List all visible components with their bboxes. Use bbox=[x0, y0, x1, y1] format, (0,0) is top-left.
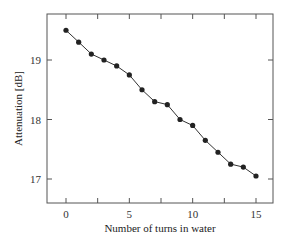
y-axis-label: Attenuation [dB] bbox=[12, 71, 24, 146]
x-tick-label: 10 bbox=[187, 208, 199, 220]
x-tick-label: 5 bbox=[127, 208, 133, 220]
x-tick-label: 15 bbox=[251, 208, 263, 220]
x-tick-label: 0 bbox=[63, 208, 69, 220]
series-line bbox=[66, 30, 256, 176]
data-point bbox=[177, 117, 182, 122]
data-point bbox=[63, 28, 68, 33]
y-tick-label: 19 bbox=[30, 54, 42, 66]
chart: 051015171819 Number of turns in water At… bbox=[0, 0, 289, 243]
data-point bbox=[190, 123, 195, 128]
data-point bbox=[139, 87, 144, 92]
data-point bbox=[165, 102, 170, 107]
data-point bbox=[152, 99, 157, 104]
data-point bbox=[127, 72, 132, 77]
y-tick-label: 17 bbox=[30, 173, 42, 185]
y-tick-label: 18 bbox=[30, 114, 42, 126]
data-point bbox=[241, 165, 246, 170]
data-point bbox=[228, 162, 233, 167]
data-point bbox=[114, 63, 119, 68]
tick-labels: 051015171819 bbox=[30, 54, 262, 220]
data-point bbox=[253, 173, 258, 178]
data-point bbox=[215, 150, 220, 155]
x-axis-label: Number of turns in water bbox=[104, 222, 216, 234]
data-point bbox=[89, 51, 94, 56]
data-point bbox=[203, 138, 208, 143]
data-point bbox=[101, 57, 106, 62]
data-point bbox=[76, 40, 81, 45]
